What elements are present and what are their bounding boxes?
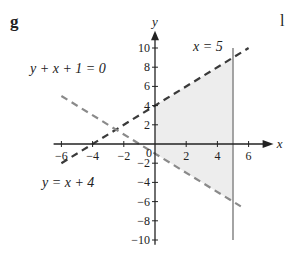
x-axis-label: x (276, 136, 283, 151)
line-label-2: y = x + 4 (40, 175, 94, 190)
y-tick-label: 10 (138, 41, 150, 55)
y-tick-label: −8 (137, 214, 150, 228)
y-tick-label: 8 (144, 60, 150, 74)
y-axis-arrow-icon (151, 31, 159, 41)
y-tick-label: −4 (137, 175, 150, 189)
x-tick-label: −4 (86, 149, 99, 163)
x-tick-label: 6 (246, 149, 252, 163)
inequality-graph: xy −6−4−2246−10−8−6−4−22468100 x = 5y + … (0, 0, 291, 255)
x-tick-label: −2 (117, 149, 130, 163)
y-tick-label: 2 (144, 118, 150, 132)
line-label-1: y + x + 1 = 0 (28, 61, 106, 76)
y-tick-label: −10 (131, 233, 150, 247)
line-label-0: x = 5 (192, 39, 223, 54)
y-tick-label: −6 (137, 195, 150, 209)
y-tick-label: 6 (144, 79, 150, 93)
shaded-region-polygon (155, 58, 233, 202)
origin-label: 0 (146, 146, 152, 160)
x-axis-arrow-icon (263, 140, 274, 148)
x-tick-label: 2 (183, 149, 189, 163)
x-tick-label: 4 (214, 149, 220, 163)
x-tick-label: −6 (55, 149, 68, 163)
y-axis-label: y (150, 14, 158, 29)
y-tick-label: 4 (144, 99, 150, 113)
shaded-region (155, 58, 233, 202)
